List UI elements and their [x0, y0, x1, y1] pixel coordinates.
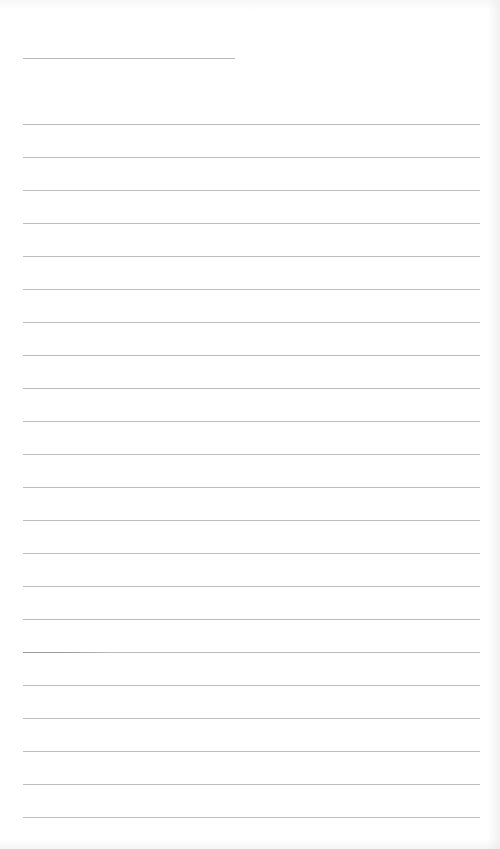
- bottom-edge-bleed: [0, 839, 500, 849]
- right-edge-shadow: [488, 0, 500, 849]
- rule-line-17: [23, 652, 480, 653]
- rule-line-6: [23, 289, 480, 290]
- rule-line-12: [23, 487, 480, 488]
- rule-line-4: [23, 223, 480, 224]
- rule-line-3: [23, 190, 480, 191]
- rule-line-20: [23, 751, 480, 752]
- rule-line-9: [23, 388, 480, 389]
- header-title-line: [23, 58, 235, 59]
- rule-line-5: [23, 256, 480, 257]
- ruled-lines: [23, 124, 480, 849]
- rule-line-13: [23, 520, 480, 521]
- rule-line-15: [23, 586, 480, 587]
- rule-line-8: [23, 355, 480, 356]
- rule-line-18: [23, 685, 480, 686]
- rule-line-19: [23, 718, 480, 719]
- rule-line-16: [23, 619, 480, 620]
- rule-line-11: [23, 454, 480, 455]
- rule-line-7: [23, 322, 480, 323]
- rule-line-14: [23, 553, 480, 554]
- rule-line-21: [23, 784, 480, 785]
- rule-line-22: [23, 817, 480, 818]
- rule-line-1: [23, 124, 480, 125]
- rule-line-10: [23, 421, 480, 422]
- lined-paper-page: [0, 0, 500, 849]
- rule-line-2: [23, 157, 480, 158]
- top-edge-bleed: [0, 0, 500, 10]
